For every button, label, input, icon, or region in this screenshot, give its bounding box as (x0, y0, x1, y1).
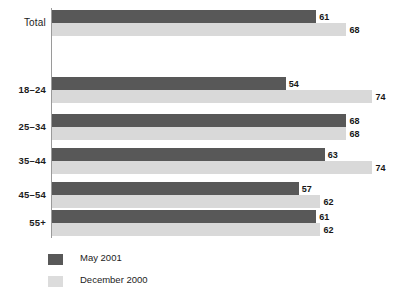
bar-value-label: 61 (316, 12, 329, 22)
legend-swatch-icon (48, 276, 63, 287)
bar-row: 54 (52, 77, 392, 90)
legend-label: May 2001 (80, 252, 122, 263)
legend-swatch-icon (48, 254, 63, 265)
bar-value-label: 57 (299, 184, 312, 194)
bar-group: Total6168 (0, 10, 400, 36)
bar-group: 35–446374 (0, 148, 400, 174)
bar (52, 114, 346, 127)
bar (52, 90, 372, 103)
bar-value-label: 68 (346, 25, 359, 35)
bar-value-label: 74 (372, 163, 385, 173)
bar-row: 74 (52, 90, 392, 103)
category-label: 25–34 (0, 121, 46, 132)
bar-value-label: 54 (286, 79, 299, 89)
bar-row: 68 (52, 23, 392, 36)
bar-value-label: 61 (316, 212, 329, 222)
legend-item[interactable]: May 2001 (48, 252, 378, 274)
bar-row: 57 (52, 182, 392, 195)
bar-row: 74 (52, 161, 392, 174)
bar-row: 61 (52, 210, 392, 223)
bar-row: 62 (52, 195, 392, 208)
bar-row: 68 (52, 114, 392, 127)
category-label: 35–44 (0, 155, 46, 166)
bar-group: 18–245474 (0, 77, 400, 103)
category-label: Total (0, 17, 46, 28)
bar-row: 68 (52, 127, 392, 140)
bar-row: 63 (52, 148, 392, 161)
category-label: 45–54 (0, 189, 46, 200)
legend-item[interactable]: December 2000 (48, 274, 378, 296)
bar (52, 210, 316, 223)
bar-value-label: 62 (320, 225, 333, 235)
bar (52, 77, 286, 90)
bar (52, 182, 299, 195)
bar-row: 61 (52, 10, 392, 23)
bar-value-label: 62 (320, 197, 333, 207)
bar (52, 148, 325, 161)
bar-value-label: 68 (346, 116, 359, 126)
category-label: 55+ (0, 217, 46, 228)
bar-group: 45–545762 (0, 182, 400, 208)
bar-row: 62 (52, 223, 392, 236)
plot-area: Total616818–24547425–34686835–44637445–5… (0, 0, 400, 245)
chart-legend: May 2001December 2000 (48, 252, 378, 296)
legend-label: December 2000 (80, 274, 148, 285)
bar-value-label: 68 (346, 129, 359, 139)
bar-group: 25–346868 (0, 114, 400, 140)
bar-value-label: 74 (372, 92, 385, 102)
category-label: 18–24 (0, 84, 46, 95)
bar-group: 55+6162 (0, 210, 400, 236)
bar (52, 161, 372, 174)
bar (52, 223, 320, 236)
bar-chart: Total616818–24547425–34686835–44637445–5… (0, 0, 400, 307)
bar-value-label: 63 (325, 150, 338, 160)
bar (52, 23, 346, 36)
bar (52, 127, 346, 140)
bar (52, 10, 316, 23)
bar (52, 195, 320, 208)
